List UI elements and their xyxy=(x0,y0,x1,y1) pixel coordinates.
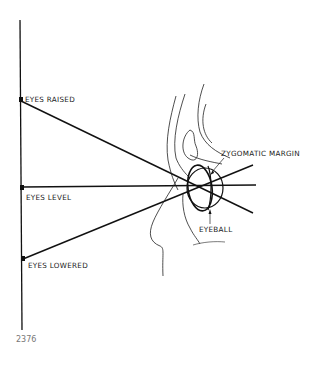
vertical-reference-line xyxy=(20,20,22,330)
eyeball-arrowhead xyxy=(209,209,212,214)
eyes-level-label: EYES LEVEL xyxy=(26,193,71,202)
eyes-lowered-sight-line xyxy=(23,165,253,259)
eyes-level-sight-line xyxy=(22,185,256,187)
eyes-lowered-label: EYES LOWERED xyxy=(28,261,88,270)
figure-number: 2376 xyxy=(16,335,36,344)
nose-profile xyxy=(150,178,178,276)
eyes-raised-label: EYES RAISED xyxy=(25,95,75,104)
temple-inner-contour xyxy=(203,104,212,143)
eyeball-label: EYEBALL xyxy=(199,225,232,234)
zygomatic-margin-label: ZYGOMATIC MARGIN xyxy=(221,149,300,158)
lower-cheek-contour xyxy=(193,242,225,245)
sight-line-diagram xyxy=(0,0,323,368)
zygomatic-pointer xyxy=(212,158,224,172)
